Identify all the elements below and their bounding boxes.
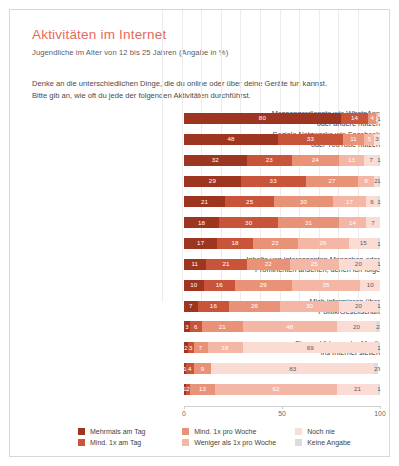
row-bar-wrap: 362148202 bbox=[184, 321, 380, 332]
bar-segment[interactable]: 27 bbox=[306, 176, 359, 187]
bar-segment-value: 32 bbox=[212, 157, 219, 163]
bar-segment[interactable]: 17 bbox=[333, 196, 366, 207]
bar-segment[interactable]: 25 bbox=[225, 196, 274, 207]
bar-segment[interactable]: 10 bbox=[184, 280, 204, 291]
bar-segment[interactable]: 8 bbox=[358, 176, 374, 187]
legend-item[interactable]: Noch nie bbox=[295, 428, 382, 435]
bar-segment[interactable]: 26 bbox=[229, 301, 280, 312]
stacked-bar[interactable]: 362148202 bbox=[184, 321, 380, 332]
bar-segment[interactable]: 29 bbox=[184, 176, 241, 187]
chart-row: Musik runterladen oder hören3223241371 bbox=[32, 155, 380, 176]
legend-item[interactable]: Weniger als 1x pro Woche bbox=[182, 439, 295, 446]
bar-segment[interactable]: 31 bbox=[278, 217, 339, 228]
stacked-bar[interactable]: 2371869 bbox=[184, 342, 380, 353]
bar-segment-value: 15 bbox=[360, 240, 367, 246]
bar-segment[interactable]: 20 bbox=[337, 321, 376, 332]
stacked-bar[interactable]: 80144 bbox=[184, 113, 380, 124]
bar-segment-value: 10 bbox=[367, 282, 374, 288]
bar-segment[interactable]: 18 bbox=[184, 217, 219, 228]
bar-segment[interactable]: 80 bbox=[184, 113, 341, 124]
stacked-bar[interactable]: 1121222520 bbox=[184, 259, 380, 270]
legend-label: Weniger als 1x pro Woche bbox=[194, 439, 276, 446]
bar-segment-value: 4 bbox=[188, 366, 192, 372]
bar-segment[interactable]: 16 bbox=[198, 301, 229, 312]
bar-segment[interactable]: 13 bbox=[339, 155, 364, 166]
bar-segment[interactable]: 7 bbox=[194, 342, 208, 353]
bar-segment[interactable]: 7 bbox=[366, 217, 380, 228]
bar-segment[interactable]: 11 bbox=[184, 259, 206, 270]
bar-segment[interactable]: 26 bbox=[298, 238, 349, 249]
bar-segment[interactable]: 83 bbox=[211, 363, 374, 374]
bar-segment[interactable]: 21 bbox=[337, 384, 378, 395]
bar-segment-value: 20 bbox=[355, 303, 362, 309]
bar-segment[interactable]: 4 bbox=[186, 363, 194, 374]
bar-segment-value: 33 bbox=[270, 178, 277, 184]
bar-segment[interactable]: 29 bbox=[235, 280, 292, 291]
stacked-bar[interactable]: 2136221 bbox=[184, 384, 380, 395]
bar-segment[interactable]: 18 bbox=[208, 342, 243, 353]
bar-segment[interactable]: 14 bbox=[339, 217, 366, 228]
row-bar-wrap: 7162630201 bbox=[184, 301, 380, 312]
bar-segment[interactable]: 16 bbox=[204, 280, 235, 291]
bar-segment[interactable]: 48 bbox=[243, 321, 337, 332]
bar-segment[interactable]: 2 bbox=[376, 321, 380, 332]
bar-segment[interactable]: 48 bbox=[184, 134, 278, 145]
bar-segment[interactable]: 24 bbox=[292, 155, 339, 166]
stacked-bar[interactable]: 48331153 bbox=[184, 134, 380, 145]
bar-segment[interactable]: 25 bbox=[290, 259, 339, 270]
bar-segment[interactable]: 6 bbox=[366, 196, 378, 207]
bar-segment[interactable]: 23 bbox=[247, 155, 292, 166]
legend-label: Keine Angabe bbox=[307, 439, 351, 446]
stacked-bar[interactable]: 183031147 bbox=[184, 217, 380, 228]
bar-segment[interactable]: 9 bbox=[194, 363, 212, 374]
legend-swatch bbox=[182, 428, 189, 435]
stacked-bar[interactable]: 1016293510 bbox=[184, 280, 380, 291]
bar-segment[interactable]: 32 bbox=[184, 155, 247, 166]
bar-segment[interactable]: 11 bbox=[343, 134, 365, 145]
bar-segment[interactable]: 30 bbox=[219, 217, 278, 228]
legend-item[interactable]: Mind. 1x am Tag bbox=[78, 439, 182, 446]
bar-segment-value: 2 bbox=[374, 366, 378, 372]
bar-segment[interactable]: 21 bbox=[202, 321, 243, 332]
bar-segment[interactable]: 30 bbox=[280, 301, 339, 312]
bar-segment[interactable]: 6 bbox=[190, 321, 202, 332]
bar-segment[interactable]: 62 bbox=[215, 384, 337, 395]
stacked-bar[interactable]: 49832 bbox=[184, 363, 380, 374]
legend-item[interactable]: Mind. 1x pro Woche bbox=[182, 428, 295, 435]
stacked-bar[interactable]: 716263020 bbox=[184, 301, 380, 312]
bar-segment[interactable]: 22 bbox=[247, 259, 290, 270]
legend-item[interactable]: Keine Angabe bbox=[295, 439, 382, 446]
stacked-bar[interactable]: 322324137 bbox=[184, 155, 380, 166]
stacked-bar[interactable]: 212530176 bbox=[184, 196, 380, 207]
row-bar-wrap: 17182326151 bbox=[184, 238, 380, 249]
bar-segment[interactable]: 3 bbox=[374, 134, 380, 145]
legend-item[interactable]: Mehrmals am Tag bbox=[78, 428, 182, 435]
chart-row: Soziale Netzwerke wie Facebookoder YouTu… bbox=[32, 134, 380, 155]
bar-segment[interactable]: 21 bbox=[184, 196, 225, 207]
bar-segment[interactable]: 69 bbox=[243, 342, 378, 353]
bar-segment[interactable]: 30 bbox=[274, 196, 333, 207]
bar-segment[interactable]: 10 bbox=[360, 280, 380, 291]
bar-segment[interactable]: 14 bbox=[341, 113, 368, 124]
bar-segment[interactable]: 13 bbox=[190, 384, 215, 395]
bar-segment-value: 14 bbox=[351, 115, 358, 121]
bar-segment[interactable]: 33 bbox=[278, 134, 343, 145]
stacked-bar[interactable]: 29332782 bbox=[184, 176, 380, 187]
bar-segment[interactable]: 21 bbox=[206, 259, 247, 270]
bar-segment[interactable]: 35 bbox=[292, 280, 361, 291]
bar-segment[interactable]: 7 bbox=[184, 301, 198, 312]
bar-segment[interactable]: 23 bbox=[253, 238, 298, 249]
bar-segment-value: 1 bbox=[377, 156, 380, 164]
bar-segment[interactable]: 7 bbox=[364, 155, 378, 166]
bar-segment[interactable]: 15 bbox=[349, 238, 378, 249]
stacked-bar[interactable]: 1718232615 bbox=[184, 238, 380, 249]
bar-segment[interactable]: 17 bbox=[184, 238, 217, 249]
row-bar-wrap: 3223241371 bbox=[184, 155, 380, 166]
bar-segment[interactable]: 2 bbox=[374, 363, 378, 374]
bar-segment[interactable]: 33 bbox=[241, 176, 306, 187]
bar-segment[interactable]: 5 bbox=[364, 134, 374, 145]
bar-segment[interactable]: 20 bbox=[339, 301, 378, 312]
row-bar-wrap: 23718691 bbox=[184, 342, 380, 353]
bar-segment[interactable]: 18 bbox=[217, 238, 252, 249]
bar-segment[interactable]: 20 bbox=[339, 259, 378, 270]
